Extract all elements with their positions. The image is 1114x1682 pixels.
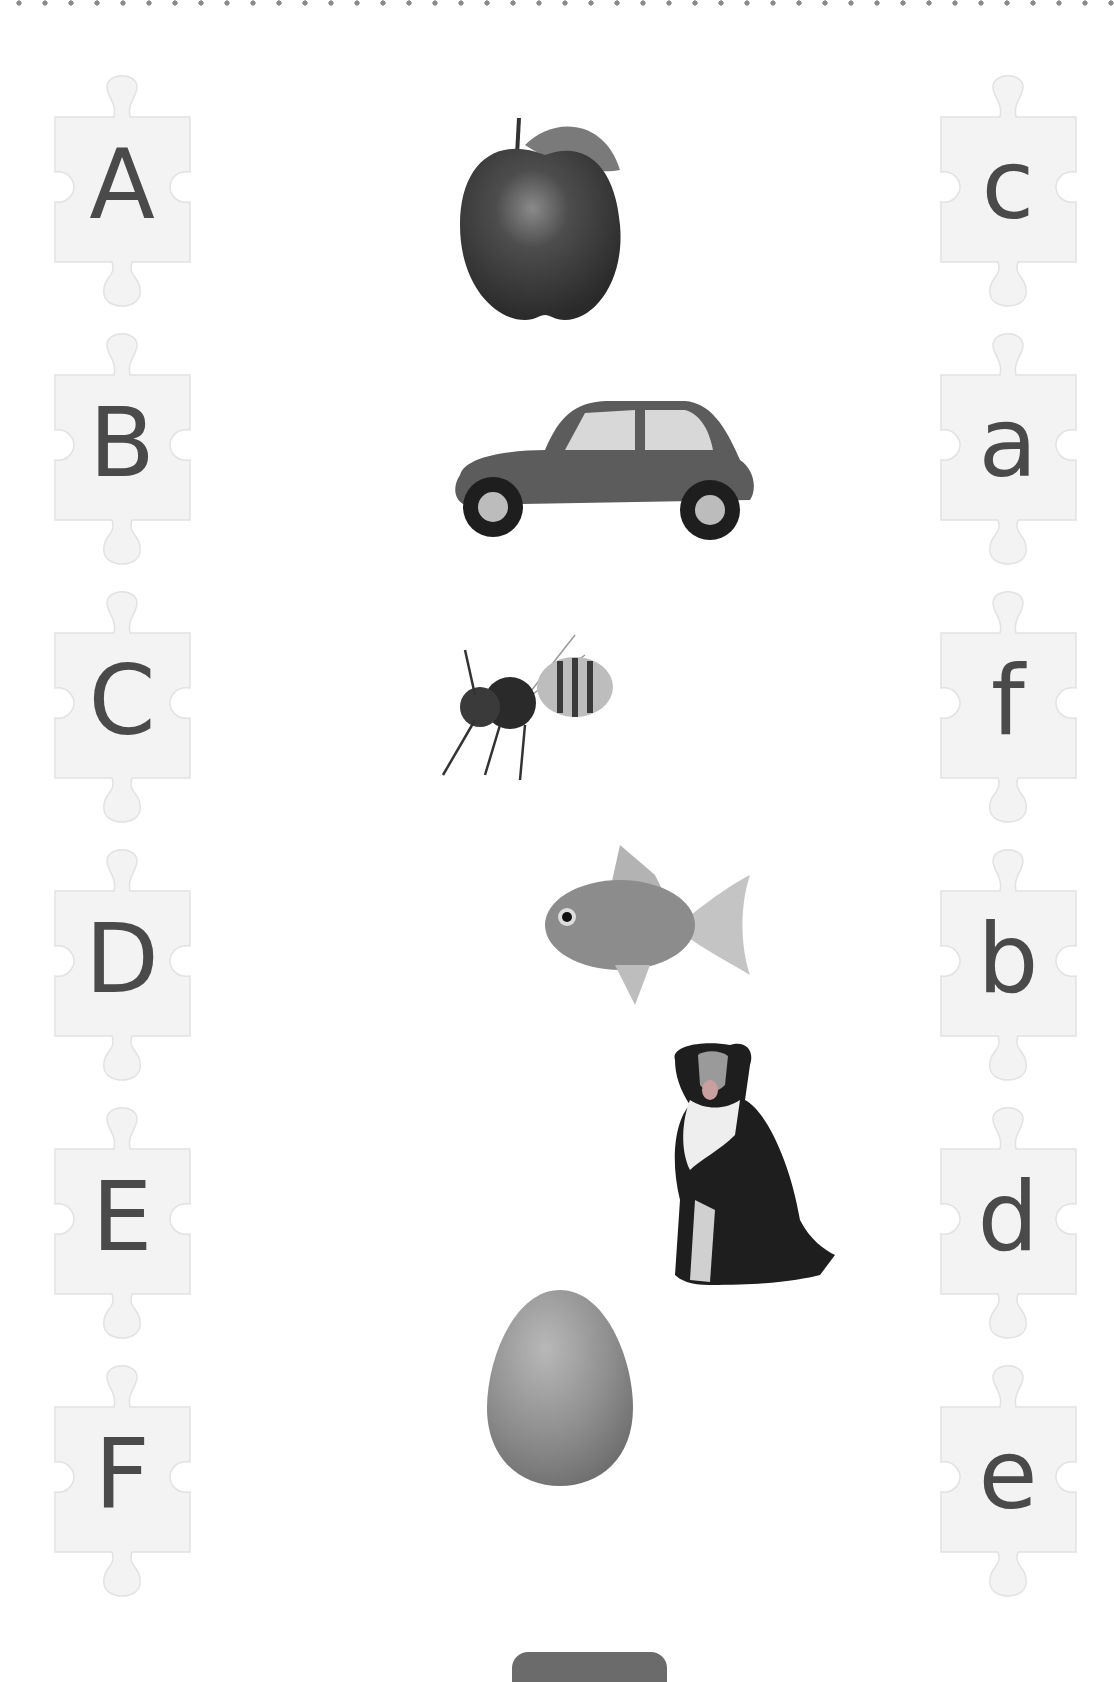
- right-letter: d: [938, 1169, 1078, 1265]
- right-puzzle-piece[interactable]: c: [938, 62, 1078, 312]
- left-puzzle-piece[interactable]: E: [52, 1094, 192, 1344]
- right-letter: e: [938, 1427, 1078, 1523]
- left-puzzle-piece[interactable]: A: [52, 62, 192, 312]
- left-puzzle-piece[interactable]: C: [52, 578, 192, 828]
- right-letter: b: [938, 911, 1078, 1007]
- fish-picture[interactable]: [525, 835, 755, 1015]
- left-letter: A: [52, 137, 192, 233]
- bottom-tab: [512, 1652, 667, 1682]
- left-puzzle-piece[interactable]: D: [52, 836, 192, 1086]
- left-puzzle-piece[interactable]: B: [52, 320, 192, 570]
- left-letter: F: [52, 1427, 192, 1523]
- left-letter: D: [52, 911, 192, 1007]
- egg-picture[interactable]: [485, 1288, 635, 1488]
- apple-picture[interactable]: [455, 115, 635, 325]
- left-puzzle-piece[interactable]: F: [52, 1352, 192, 1602]
- left-letter: B: [52, 395, 192, 491]
- dotted-cut-line: [0, 0, 1114, 6]
- car-picture[interactable]: [445, 395, 775, 555]
- right-puzzle-piece[interactable]: f: [938, 578, 1078, 828]
- left-letter: E: [52, 1169, 192, 1265]
- right-letter: a: [938, 395, 1078, 491]
- dog-picture[interactable]: [650, 1040, 835, 1295]
- right-puzzle-piece[interactable]: b: [938, 836, 1078, 1086]
- left-letter: C: [52, 653, 192, 749]
- right-letter: c: [938, 137, 1078, 233]
- right-puzzle-piece[interactable]: a: [938, 320, 1078, 570]
- right-puzzle-piece[interactable]: d: [938, 1094, 1078, 1344]
- bee-picture[interactable]: [435, 625, 625, 790]
- right-puzzle-piece[interactable]: e: [938, 1352, 1078, 1602]
- right-letter: f: [938, 653, 1078, 749]
